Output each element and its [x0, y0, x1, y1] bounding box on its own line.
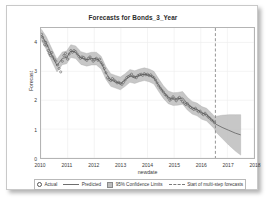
legend-item[interactable]: Actual: [37, 182, 57, 187]
legend-item-label: Predicted: [82, 182, 101, 187]
y-tick-label: 1: [23, 127, 37, 133]
legend-item-label: Start of multi-step forecasts: [187, 182, 243, 187]
x-tick-label: 2012: [81, 162, 107, 168]
x-tick-label: 2018: [242, 162, 268, 168]
page-title: Forecasts for Bonds_3_Year: [7, 14, 259, 21]
chart-card: Forecasts for Bonds_3_Year Forecast 0123…: [6, 5, 258, 190]
legend-item[interactable]: Predicted: [63, 182, 101, 187]
x-tick-label: 2011: [54, 162, 80, 168]
x-tick-label: 2013: [108, 162, 134, 168]
x-tick-label: 2017: [215, 162, 241, 168]
legend-dashed-line-icon: [169, 184, 185, 185]
legend-item-label: 95% Confidence Limits: [116, 182, 163, 187]
legend-line-icon: [63, 184, 79, 185]
x-tick-label: 2010: [27, 162, 53, 168]
forecast-plot: [41, 28, 254, 158]
legend-item[interactable]: Start of multi-step forecasts: [169, 182, 243, 187]
y-tick-label: 2: [23, 97, 37, 103]
plot-frame: [40, 27, 255, 159]
x-tick-label: 2015: [161, 162, 187, 168]
y-tick-label: 3: [23, 68, 37, 74]
legend-open-circle-icon: [37, 182, 42, 187]
x-axis-label: newdate: [40, 169, 255, 175]
x-tick-label: 2014: [135, 162, 161, 168]
legend-item[interactable]: 95% Confidence Limits: [107, 182, 162, 188]
chart-legend: ActualPredicted95% Confidence LimitsStar…: [34, 179, 246, 190]
legend-item-label: Actual: [44, 182, 57, 187]
x-tick-label: 2016: [188, 162, 214, 168]
y-tick-label: 4: [23, 39, 37, 45]
legend-band-icon: [107, 182, 113, 188]
confidence-band: [42, 29, 241, 155]
